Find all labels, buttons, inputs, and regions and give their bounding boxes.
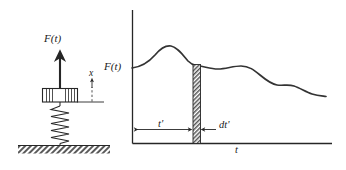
- figure-canvas: [0, 0, 346, 170]
- ground-hatching: [18, 146, 110, 154]
- force-arrow-label: F(t): [44, 33, 61, 44]
- differential-strip: [193, 65, 201, 144]
- x-axis-label: t: [235, 145, 238, 156]
- mass-spring-schematic: [18, 56, 110, 154]
- force-curve: [132, 46, 326, 97]
- mass-block: [43, 89, 78, 103]
- interval-label-tprime: t': [158, 119, 163, 130]
- interval-label-dtprime: dt': [219, 120, 229, 131]
- displacement-label: x: [89, 69, 93, 79]
- figure-root: F(t) x F(t) t' dt' t: [0, 0, 346, 170]
- coil-spring: [51, 102, 69, 146]
- y-axis-label: F(t): [104, 61, 121, 72]
